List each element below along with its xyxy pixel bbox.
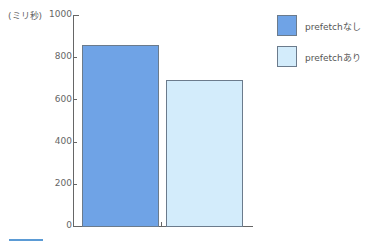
y-axis-tick [73, 15, 79, 16]
y-axis-line [73, 15, 74, 227]
legend-label: prefetchあり [305, 51, 361, 64]
legend-label: prefetchなし [305, 20, 361, 33]
y-axis-unit-label: (ミリ秒) [8, 9, 42, 22]
bar-prefetch-with [166, 80, 243, 227]
legend-swatch [277, 15, 297, 36]
y-tick-label: 600 [42, 94, 72, 104]
y-tick-label: 1000 [42, 9, 72, 19]
legend-swatch [277, 46, 297, 67]
y-tick-label: 400 [42, 136, 72, 146]
y-tick-label: 200 [42, 178, 72, 188]
decorative-bar [9, 239, 43, 241]
y-axis-tick [73, 99, 77, 100]
y-tick-label: 0 [42, 220, 72, 230]
bar-prefetch-none [82, 45, 159, 227]
y-axis-tick [73, 184, 77, 185]
y-tick-label: 800 [42, 51, 72, 61]
y-axis-tick [73, 57, 77, 58]
x-axis-tick [161, 222, 162, 226]
y-axis-tick [73, 142, 77, 143]
